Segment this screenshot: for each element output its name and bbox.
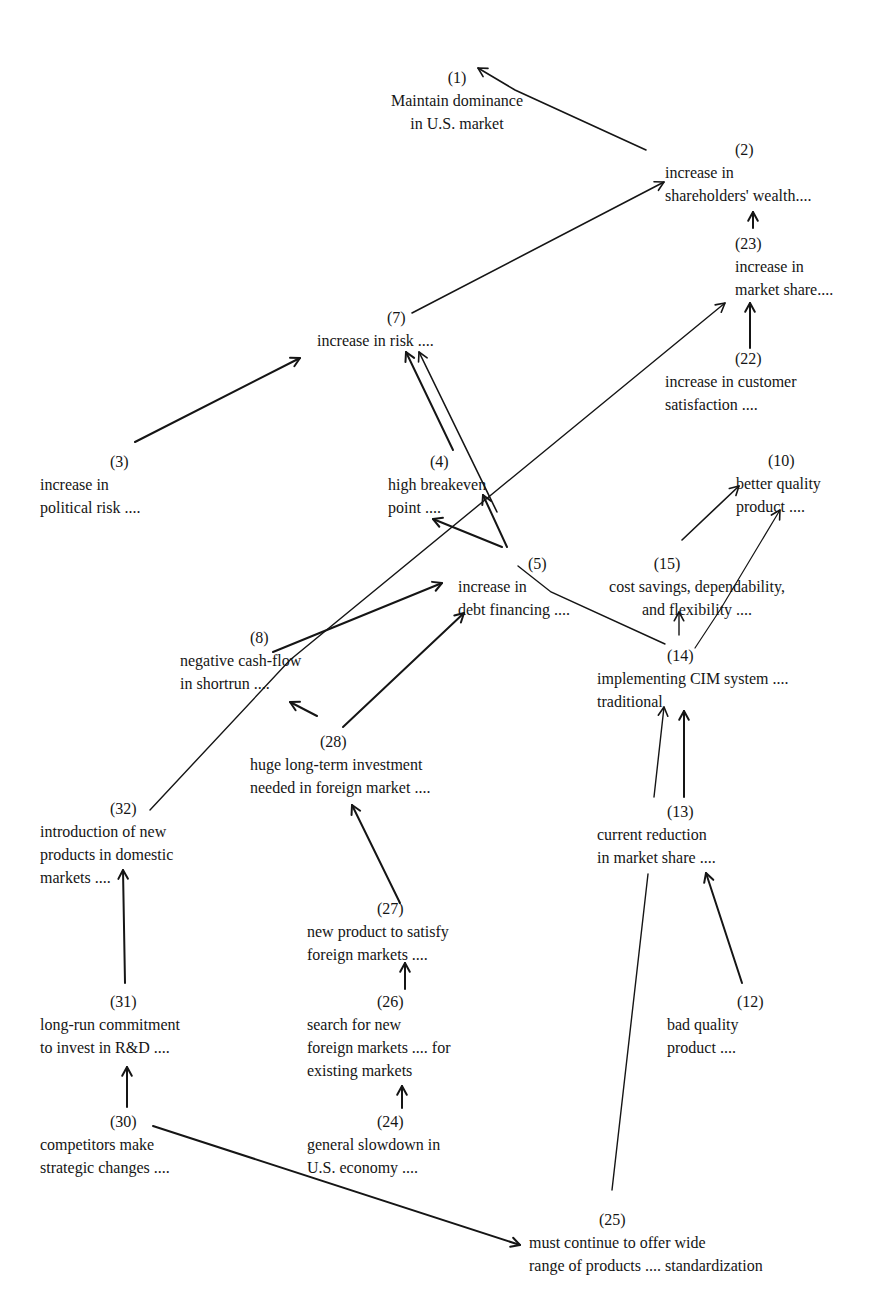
edge-13b-to-14: [679, 711, 689, 797]
edge-28-to-8: [290, 702, 317, 716]
node-number: (31): [40, 990, 180, 1013]
concept-node-1: (1) Maintain dominancein U.S. market: [373, 66, 541, 135]
concept-node-27: (27) new product to satisfyforeign marke…: [307, 897, 449, 966]
node-label-line: implementing CIM system ....: [597, 667, 789, 690]
concept-node-15: (15) cost savings, dependability,and fle…: [597, 552, 797, 621]
edge-28-to-5: [343, 613, 464, 727]
node-number: (13): [597, 800, 716, 823]
node-label-line: increase in: [665, 161, 811, 184]
concept-node-26: (26) search for newforeign markets .... …: [307, 990, 451, 1082]
node-label-line: search for new: [307, 1013, 451, 1036]
node-number: (23): [735, 232, 833, 255]
concept-node-2: (2) increase inshareholders' wealth....: [665, 138, 811, 207]
node-number: (2): [665, 138, 811, 161]
node-label-line: better quality: [736, 472, 821, 495]
node-number: (3): [40, 450, 140, 473]
edge-7-to-2: [412, 182, 664, 313]
node-label-line: traditional: [597, 690, 789, 713]
edge-25-to-13: [612, 874, 648, 1190]
edge-30-to-31: [122, 1067, 132, 1107]
concept-node-8: (8) negative cash-flowin shortrun ....: [180, 626, 301, 695]
node-label-line: markets ....: [40, 866, 173, 889]
node-label-line: long-run commitment: [40, 1013, 180, 1036]
node-label-line: increase in customer: [665, 370, 797, 393]
node-label-line: cost savings, dependability,: [597, 575, 797, 598]
node-label-line: foreign markets .... for: [307, 1036, 451, 1059]
node-number: (30): [40, 1110, 170, 1133]
concept-node-23: (23) increase inmarket share....: [735, 232, 833, 301]
node-label-line: point ....: [388, 496, 486, 519]
node-number: (15): [537, 552, 797, 575]
node-label-line: increase in: [40, 473, 140, 496]
node-label-line: huge long-term investment: [250, 753, 430, 776]
concept-node-7: (7) increase in risk ....: [317, 306, 434, 352]
node-number: (8): [180, 626, 301, 649]
node-label-line: increase in: [735, 255, 833, 278]
edge-27-to-28: [352, 805, 400, 903]
concept-node-14: (14) implementing CIM system ....traditi…: [597, 644, 789, 713]
concept-node-12: (12) bad qualityproduct ....: [667, 990, 764, 1059]
node-label-line: existing markets: [307, 1059, 451, 1082]
concept-node-30: (30) competitors makestrategic changes .…: [40, 1110, 170, 1179]
node-label-line: product ....: [667, 1036, 764, 1059]
node-label-line: in market share ....: [597, 846, 716, 869]
edge-24-to-26: [397, 1086, 407, 1108]
node-number: (24): [307, 1110, 440, 1133]
concept-node-13: (13) current reductionin market share ..…: [597, 800, 716, 869]
node-label-line: must continue to offer wide: [529, 1231, 763, 1254]
concept-node-4: (4) high breakevenpoint ....: [388, 450, 486, 519]
node-number: (25): [529, 1208, 763, 1231]
edge-12-to-13: [704, 873, 742, 983]
edge-15-to-10: [682, 486, 739, 540]
node-label-line: general slowdown in: [307, 1133, 440, 1156]
node-number: (10): [736, 449, 821, 472]
node-label-line: bad quality: [667, 1013, 764, 1036]
concept-node-28: (28) huge long-term investmentneeded in …: [250, 730, 430, 799]
edge-23-to-2: [748, 212, 758, 228]
node-number: (26): [307, 990, 451, 1013]
node-label-line: and flexibility ....: [597, 598, 797, 621]
cognitive-map-diagram: (1) Maintain dominancein U.S. market (2)…: [0, 0, 894, 1299]
edge-3-to-7: [135, 358, 300, 442]
node-number: (12): [667, 990, 764, 1013]
node-label-line: product ....: [736, 495, 821, 518]
concept-node-24: (24) general slowdown inU.S. economy ...…: [307, 1110, 440, 1179]
node-number: (7): [317, 306, 434, 329]
node-label-line: in U.S. market: [373, 112, 541, 135]
node-label-line: new product to satisfy: [307, 920, 449, 943]
node-number: (14): [597, 644, 789, 667]
node-label-line: products in domestic: [40, 843, 173, 866]
node-label-line: strategic changes ....: [40, 1156, 170, 1179]
node-label-line: competitors make: [40, 1133, 170, 1156]
node-label-line: high breakeven: [388, 473, 486, 496]
node-label-line: increase in: [458, 575, 570, 598]
node-label-line: political risk ....: [40, 496, 140, 519]
node-label-line: debt financing ....: [458, 598, 570, 621]
edge-4-to-7: [405, 352, 453, 450]
node-label-line: satisfaction ....: [665, 393, 797, 416]
node-label-line: foreign markets ....: [307, 943, 449, 966]
edge-5-to-4: [433, 518, 502, 547]
node-number: (28): [250, 730, 430, 753]
node-label-line: to invest in R&D ....: [40, 1036, 180, 1059]
edge-22-to-23: [745, 303, 755, 348]
edge-26-to-27: [400, 963, 410, 989]
edge-13-to-14: [654, 707, 668, 797]
node-label-line: current reduction: [597, 823, 716, 846]
concept-node-25: (25) must continue to offer widerange of…: [529, 1208, 763, 1277]
node-label-line: U.S. economy ....: [307, 1156, 440, 1179]
concept-node-3: (3) increase inpolitical risk ....: [40, 450, 140, 519]
node-label-line: introduction of new: [40, 820, 173, 843]
concept-node-31: (31) long-run commitmentto invest in R&D…: [40, 990, 180, 1059]
node-label-line: increase in risk ....: [317, 329, 434, 352]
concept-node-32: (32) introduction of newproducts in dome…: [40, 797, 173, 889]
node-label-line: needed in foreign market ....: [250, 776, 430, 799]
node-label-line: Maintain dominance: [373, 89, 541, 112]
node-label-line: range of products .... standardization: [529, 1254, 763, 1277]
node-number: (1): [373, 66, 541, 89]
node-number: (32): [40, 797, 173, 820]
concept-node-22: (22) increase in customersatisfaction ..…: [665, 347, 797, 416]
node-label-line: shareholders' wealth....: [665, 184, 811, 207]
node-label-line: market share....: [735, 278, 833, 301]
node-number: (4): [388, 450, 486, 473]
